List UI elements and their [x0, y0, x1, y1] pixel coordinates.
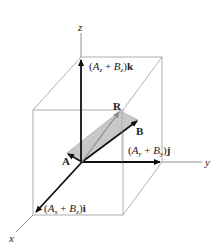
y-axis-label: y	[204, 156, 210, 168]
vector-a-label: A	[62, 155, 70, 167]
x-axis-label: x	[8, 232, 14, 244]
z-axis-label: z	[77, 21, 83, 33]
x-axis	[16, 215, 33, 232]
vector-r-label: R	[113, 100, 122, 112]
i-component-label: (Ax + Bx)i	[44, 202, 86, 216]
k-component-label: (Az + Bz)k	[89, 60, 134, 74]
j-component-label: (Ay + By)j	[128, 144, 170, 158]
vector-b-label: B	[136, 125, 144, 137]
vector-diagram: z y x R B A (Az + Bz)k (Ay + By)j (Ax + …	[0, 0, 224, 252]
